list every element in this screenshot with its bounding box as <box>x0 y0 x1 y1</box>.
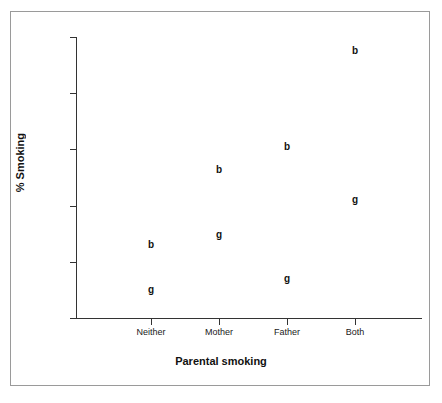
chart-figure: 0246810 NeitherMotherFatherBoth bgbgbgbg… <box>0 0 442 403</box>
data-point-marker: b <box>216 165 222 175</box>
y-axis-tick-label-wrap: 10 <box>0 37 76 38</box>
y-axis-tick-label-wrap: 8 <box>0 93 76 94</box>
y-axis-tick-label-wrap: 6 <box>0 149 76 150</box>
data-point-marker: g <box>148 285 154 295</box>
x-axis-line <box>76 318 422 319</box>
y-axis-tick-label-wrap: 0 <box>0 318 76 319</box>
x-axis-title: Parental smoking <box>0 355 442 367</box>
x-axis-tick <box>151 319 152 325</box>
y-axis-tick-label-wrap: 2 <box>0 262 76 263</box>
data-point-marker: b <box>352 46 358 56</box>
data-point-marker: b <box>148 240 154 250</box>
plot-area: bgbgbgbg <box>76 37 422 318</box>
x-axis-tick <box>287 319 288 325</box>
data-point-marker: g <box>216 230 222 240</box>
data-point-marker: g <box>284 274 290 284</box>
data-point-marker: b <box>284 142 290 152</box>
data-point-marker: g <box>352 195 358 205</box>
x-axis-tick-label: Mother <box>205 328 233 337</box>
x-axis-tick-label: Neither <box>136 328 165 337</box>
x-axis-tick <box>355 319 356 325</box>
x-axis-tick-label: Father <box>274 328 300 337</box>
y-axis-tick-label-wrap: 4 <box>0 206 76 207</box>
y-axis-title: % Smoking <box>14 133 34 192</box>
x-axis-tick-label: Both <box>346 328 365 337</box>
x-axis-tick <box>219 319 220 325</box>
